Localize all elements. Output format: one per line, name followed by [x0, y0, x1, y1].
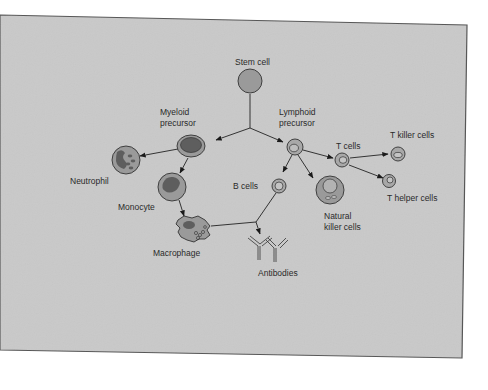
neutrophil-label: Neutrophil: [70, 176, 109, 187]
t-killer-cells-label: T killer cells: [390, 130, 434, 141]
lymphoid-label-line1: Lymphoid: [279, 107, 316, 118]
b-cell-icon: [272, 179, 286, 193]
myeloid-label-line1: Myeloid: [160, 107, 196, 118]
myeloid-precursor-icon: [177, 135, 205, 157]
natural-killer-label: Natural killer cells: [324, 211, 361, 233]
stem-cell-label: Stem cell: [235, 57, 270, 68]
monocyte-icon: [158, 173, 186, 201]
natural-killer-cell-icon: [316, 176, 344, 204]
b-cells-label: B cells: [233, 181, 258, 192]
lymphoid-precursor-label: Lymphoid precursor: [279, 107, 316, 129]
neutrophil-icon: [112, 146, 140, 174]
t-helper-cells-label: T helper cells: [387, 193, 437, 204]
lymphoid-label-line2: precursor: [279, 118, 316, 129]
nk-label-line1: Natural: [324, 211, 361, 222]
stem-cell-icon: [238, 69, 262, 93]
lymphoid-precursor-icon: [287, 139, 303, 155]
t-helper-cell-icon: [383, 175, 396, 188]
diagram-canvas: Stem cell Myeloid precursor Lymphoid pre…: [0, 0, 488, 390]
myeloid-label-line2: precursor: [160, 118, 196, 129]
antibodies-label: Antibodies: [258, 268, 298, 279]
myeloid-precursor-label: Myeloid precursor: [160, 107, 196, 129]
t-killer-cell-icon: [391, 147, 405, 161]
monocyte-label: Monocyte: [118, 202, 155, 213]
nk-label-line2: killer cells: [324, 222, 361, 233]
t-cell-icon: [335, 153, 349, 167]
macrophage-label: Macrophage: [153, 248, 200, 259]
t-cells-label: T cells: [336, 141, 360, 152]
